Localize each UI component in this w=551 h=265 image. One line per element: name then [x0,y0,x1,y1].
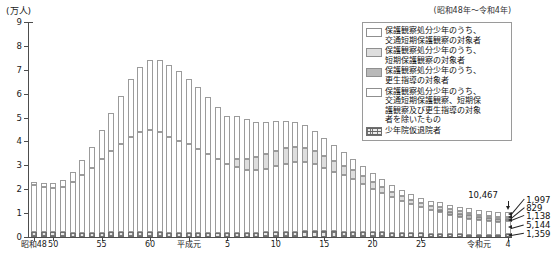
bar-segment-juvenile_training_school_parole [70,233,76,237]
bar-segment-juvenile_training_school_parole [476,235,482,237]
bar-segment-probation_other [466,219,472,235]
x-axis-line [28,237,512,238]
bar-segment-traffic_short_term_probation [215,107,221,160]
legend-swatch [366,68,382,77]
bar-segment-juvenile_training_school_parole [60,232,66,237]
bar-segment-probation_other [244,170,250,233]
leader-arrow-icon [508,225,512,229]
legend-item-1: 保護観察処分少年のうち、短期保護観察の対象者 [366,46,508,65]
legend-label: 保護観察処分少年のうち、更生指導の対象者 [385,66,481,85]
y-axis-tick [24,70,28,71]
bar-segment-probation_other [128,137,134,233]
bar-segment-traffic_short_term_probation [176,71,182,140]
bar-segment-juvenile_training_school_parole [137,232,143,237]
bar-segment-short_term_probation [331,161,337,172]
bar-segment-juvenile_training_school_parole [418,233,424,237]
bar-segment-traffic_short_term_probation [137,67,143,132]
bar-column [108,113,114,237]
bar-segment-traffic_short_term_probation [147,60,153,129]
chart-legend: 保護観察処分少年のうち、交通短期保護観察の対象者保護観察処分少年のうち、短期保護… [362,22,512,141]
bar-segment-probation_other [41,187,47,232]
bar-column [273,121,279,237]
bar-segment-probation_other [263,169,269,232]
bar-segment-traffic_short_term_probation [341,152,347,166]
bar-segment-traffic_short_term_probation [370,173,376,182]
bar-column [331,145,337,237]
bar-segment-juvenile_training_school_parole [195,233,201,237]
leader-arrow-icon [508,218,512,222]
bar-column [89,147,95,237]
bar-segment-probation_other [50,188,56,232]
bar-column [205,97,211,237]
legend-item-3: 保護観察処分少年のうち、交通短期保護観察、短期保護観察及び更生指導の対象者を除い… [366,87,508,125]
bar-column [486,211,492,237]
bar-segment-juvenile_training_school_parole [108,232,114,237]
bar-segment-traffic_short_term_probation [186,79,192,145]
bar-segment-traffic_short_term_probation [253,122,259,158]
bar-segment-juvenile_training_school_parole [205,233,211,237]
bar-segment-short_term_probation [350,170,356,179]
x-axis-tick-label: 20 [368,241,378,249]
bar-column [292,122,298,237]
bar-segment-short_term_probation [244,159,250,170]
bar-segment-juvenile_training_school_parole [79,233,85,237]
bar-segment-probation_other [273,166,279,232]
y-axis-tick [24,237,28,238]
bar-column [312,131,318,237]
x-axis-tick-label: 4 [506,241,511,249]
bar-segment-juvenile_training_school_parole [350,232,356,237]
bar-column [263,122,269,237]
bar-column [447,205,453,237]
bar-column [244,119,250,237]
bar-segment-probation_other [331,172,337,232]
y-axis-tick-label: 8 [17,42,22,51]
bar-column [166,65,172,237]
bar-column [428,201,434,237]
bar-column [128,79,134,237]
bar-segment-probation_other [224,164,230,233]
y-axis-tick [24,94,28,95]
bar-segment-traffic_short_term_probation [118,96,124,144]
segment-value-label-juvenile_training_school_parole: 1,359 [526,229,550,239]
x-axis-tick-label: 5 [225,241,230,249]
y-axis-unit-label: (万人) [6,4,31,17]
bar-segment-probation_other [495,222,501,235]
bar-segment-probation_other [476,220,482,235]
y-axis-tick-label: 4 [17,137,22,146]
bar-column [147,60,153,237]
bar-segment-traffic_short_term_probation [128,79,134,136]
bar-column [79,160,85,237]
bar-column [195,87,201,237]
bar-segment-probation_other [60,187,66,232]
bar-column [224,116,230,237]
bar-segment-juvenile_training_school_parole [495,235,501,237]
x-axis-tick-label: 15 [319,241,329,249]
bar-segment-juvenile_training_school_parole [263,232,269,237]
y-axis-tick-label: 2 [17,185,22,194]
bar-segment-juvenile_training_school_parole [302,231,308,237]
bar-segment-short_term_probation [263,154,269,169]
bar-column [408,194,414,237]
bar-segment-traffic_short_term_probation [283,121,289,148]
bar-segment-traffic_short_term_probation [70,172,76,183]
y-axis-tick [24,141,28,142]
bar-segment-short_term_probation [321,156,327,168]
bar-segment-short_term_probation [253,157,259,170]
bar-segment-short_term_probation [273,151,279,167]
bar-segment-probation_other [457,217,463,234]
bar-segment-juvenile_training_school_parole [312,231,318,237]
bar-segment-traffic_short_term_probation [273,121,279,151]
bar-segment-juvenile_training_school_parole [447,234,453,237]
bar-column [466,208,472,237]
bar-segment-short_term_probation [283,148,289,164]
bar-segment-short_term_probation [292,147,298,162]
bar-segment-juvenile_training_school_parole [157,232,163,237]
bar-segment-probation_other [399,201,405,233]
bar-segment-juvenile_training_school_parole [89,233,95,237]
bar-segment-juvenile_training_school_parole [331,231,337,237]
total-leader-line [508,201,509,207]
bar-segment-probation_other [447,215,453,234]
bar-segment-juvenile_training_school_parole [253,233,259,237]
bar-segment-probation_other [418,207,424,233]
